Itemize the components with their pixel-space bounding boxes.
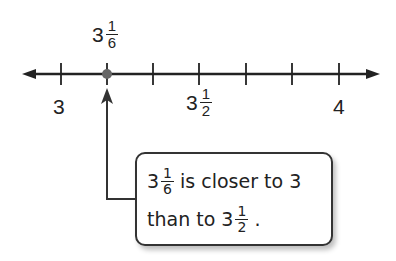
fraction: 1 6 [161, 166, 174, 197]
callout-line-1: 3 1 6 is closer to 3 [147, 162, 321, 200]
right-arrow-icon [366, 69, 380, 79]
label-3-1-6: 3 1 6 [92, 18, 118, 51]
left-arrow-icon [22, 69, 36, 79]
label-3-1-2: 3 1 2 [186, 86, 212, 119]
label-3: 3 [53, 95, 65, 119]
callout-box: 3 1 6 is closer to 3 than to 3 1 2 . [135, 152, 333, 246]
point-marker [102, 69, 112, 79]
pointer-line [107, 96, 135, 199]
fraction: 1 6 [106, 18, 118, 51]
fraction: 1 2 [235, 204, 248, 235]
fraction: 1 2 [200, 86, 212, 119]
callout-line-2: than to 3 1 2 . [147, 200, 321, 238]
label-4: 4 [333, 95, 345, 119]
